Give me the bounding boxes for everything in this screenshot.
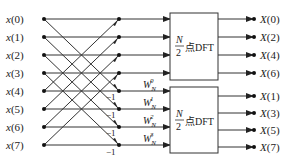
output-label-x6: X(6) — [259, 67, 280, 80]
straight-branches — [44, 19, 119, 145]
output-label-x0: X(0) — [259, 13, 280, 26]
dft-top-label: 点DFT — [185, 42, 214, 53]
minus-one-label-6: −1 — [106, 128, 116, 138]
output-label-x7: X(7) — [259, 141, 280, 154]
minus-one-label-5: −1 — [106, 110, 116, 120]
minus-one-labels: −1 −1 −1 −1 — [106, 92, 116, 157]
output-label-x4: X(4) — [259, 49, 280, 62]
input-label-7: x(7) — [5, 139, 24, 152]
dft-top-denominator: 2 — [176, 47, 181, 58]
output-nodes — [252, 17, 256, 149]
fft-butterfly-diagram: x(0) x(1) x(2) x(3) x(4) x(5) x(6) x(7) — [0, 0, 294, 165]
minus-one-label-4: −1 — [106, 92, 116, 102]
dft-block-top: N 2 点DFT — [170, 13, 218, 80]
input-label-2: x(2) — [5, 49, 24, 62]
dft-bottom-denominator: 2 — [176, 121, 181, 132]
input-label-5: x(5) — [5, 103, 24, 116]
input-label-4: x(4) — [5, 85, 24, 98]
dft-top-numerator: N — [175, 34, 184, 45]
input-label-3: x(3) — [5, 67, 24, 80]
output-labels: X(0) X(2) X(4) X(6) X(1) X(3) X(5) X(7) — [259, 13, 280, 154]
output-lines — [218, 19, 253, 147]
input-labels: x(0) x(1) x(2) x(3) x(4) x(5) x(6) x(7) — [5, 13, 24, 152]
dft-block-bottom: N 2 点DFT — [170, 87, 218, 153]
dft-bottom-numerator: N — [175, 108, 184, 119]
minus-one-label-7: −1 — [106, 147, 116, 157]
output-label-x2: X(2) — [259, 31, 280, 44]
output-label-x5: X(5) — [259, 124, 280, 137]
input-label-0: x(0) — [5, 13, 24, 26]
dft-bottom-label: 点DFT — [185, 116, 214, 127]
input-label-1: x(1) — [5, 31, 24, 44]
input-label-6: x(6) — [5, 121, 24, 134]
cross-branches — [44, 19, 119, 145]
output-label-x1: X(1) — [259, 90, 280, 103]
twiddle-factors: WN0 WN1 WN2 WN3 — [143, 77, 156, 147]
output-label-x3: X(3) — [259, 107, 280, 120]
